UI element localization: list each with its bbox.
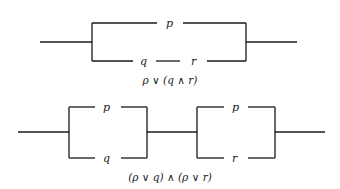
switch-q-label: q	[140, 55, 147, 68]
switch-r-label: r	[191, 55, 197, 68]
switch-p-label: p	[166, 17, 173, 30]
circuit-p-or-q-and-r: p q r ρ ∨ (q ∧ r)	[40, 17, 297, 86]
box2-switch-r-label: r	[232, 152, 238, 165]
circuit-p-or-q-and-p-or-r: p q p r (ρ ∨ q) ∧ (ρ ∨ r)	[18, 101, 325, 183]
box2-switch-p-label: p	[232, 101, 239, 114]
box1-switch-p-label: p	[103, 101, 110, 114]
switching-circuits-figure: p q r ρ ∨ (q ∧ r) p q p r (ρ ∨ q) ∧	[0, 0, 340, 189]
box1-switch-q-label: q	[103, 152, 110, 165]
caption-bottom: (ρ ∨ q) ∧ (ρ ∨ r)	[128, 171, 212, 183]
caption-top: ρ ∨ (q ∧ r)	[142, 74, 198, 86]
